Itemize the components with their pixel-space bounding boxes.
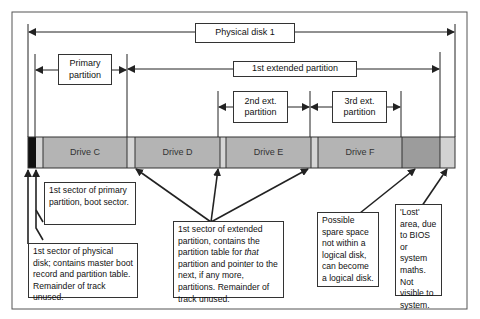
extended-sector-note: 1st sector of extended partition, contai… [173,221,284,298]
mbr-note: 1st sector of physical disk; contains ma… [28,243,138,298]
drive-d-label: Drive D [135,147,220,157]
primary-partition-label: Primary partition [58,54,112,85]
drive-e-label: Drive E [226,147,311,157]
spare-space-note: Possible spare space not within a logica… [317,212,379,287]
lost-area-note: 'Lost' area, due to BIOS or system maths… [395,204,442,296]
second-ext-partition-label: 2nd ext. partition [233,91,288,123]
disk-partition-diagram: Physical disk 1 Primary partition 1st ex… [0,0,480,319]
extended-partition-label: 1st extended partition [233,61,357,77]
drive-f-label: Drive F [318,147,402,157]
physical-disk-label: Physical disk 1 [195,23,295,43]
boot-sector-note: 1st sector of primary partition, boot se… [44,182,136,225]
third-ext-partition-label: 3rd ext. partition [332,91,387,123]
drive-c-label: Drive C [43,147,127,157]
